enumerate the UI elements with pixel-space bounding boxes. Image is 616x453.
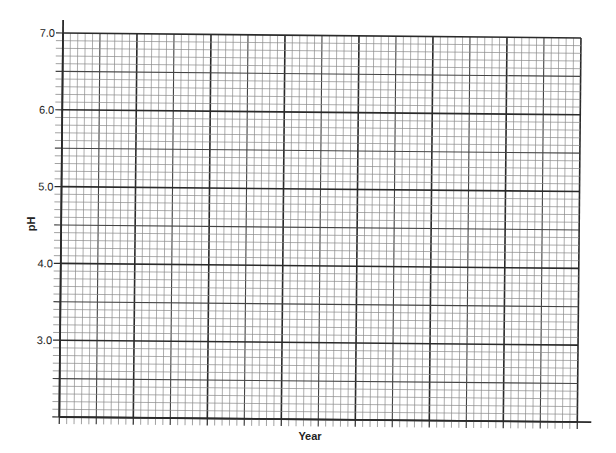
y-axis-ticks: 7.06.05.04.03.0 [37, 27, 55, 346]
y-tick-label: 5.0 [38, 180, 53, 192]
x-axis-title: Year [298, 430, 322, 442]
y-tick-label: 3.0 [37, 334, 52, 346]
y-tick-label: 4.0 [37, 257, 52, 269]
grid [59, 33, 581, 422]
y-tick-label: 7.0 [40, 27, 55, 39]
y-axis-line [59, 20, 63, 417]
ph-graph-paper-chart: 7.06.05.04.03.0 Year pH [0, 0, 616, 453]
y-tick-label: 6.0 [39, 104, 54, 116]
y-axis-title: pH [25, 217, 37, 232]
